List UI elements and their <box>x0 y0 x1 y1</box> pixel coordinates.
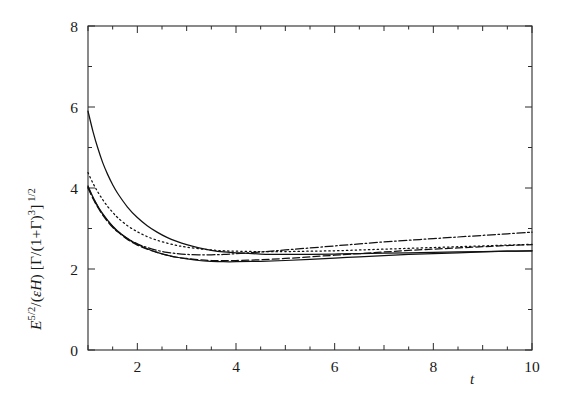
x-tick-label: 6 <box>331 358 339 375</box>
y-tick-label: 6 <box>70 99 78 116</box>
figure-container: E5/2/(εH) [Γ/(1+Γ)3] 1/2 24681002468 t <box>0 0 568 408</box>
axes-group <box>88 26 532 350</box>
x-tick-label: 8 <box>429 358 437 375</box>
x-tick-label: 4 <box>232 358 240 375</box>
plot-frame <box>88 26 532 350</box>
y-tick-label: 8 <box>70 18 78 35</box>
data-curve-1 <box>88 111 532 254</box>
curves-group <box>88 111 532 262</box>
y-tick-label: 0 <box>70 342 78 359</box>
y-tick-label: 2 <box>70 261 78 278</box>
data-curve-5 <box>88 173 532 252</box>
data-curve-2 <box>88 186 532 262</box>
y-tick-label: 4 <box>70 180 78 197</box>
x-tick-label: 2 <box>133 358 141 375</box>
tick-labels-group: 24681002468 <box>70 18 540 376</box>
x-axis-label: t <box>470 371 475 387</box>
x-tick-label: 10 <box>524 358 540 375</box>
data-curve-4 <box>88 187 532 255</box>
chart-canvas: 24681002468 t <box>0 0 568 408</box>
